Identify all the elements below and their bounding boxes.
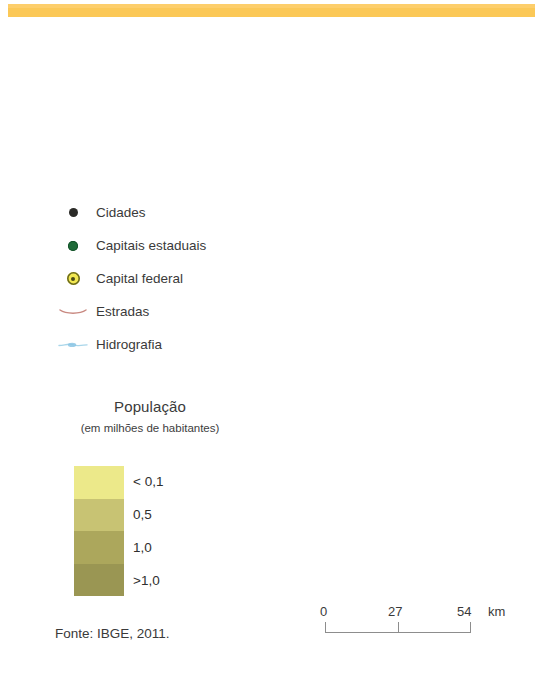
legend-item-label: Capital federal <box>96 262 183 295</box>
ramp-label: 1,0 <box>133 540 152 555</box>
ramp-label: < 0,1 <box>133 474 163 489</box>
ramp-band-lt-0-1 <box>74 466 124 499</box>
map-scale-bar: 0 27 54 km <box>316 604 516 654</box>
yellow-target-icon <box>58 262 88 295</box>
legend-item-label: Cidades <box>96 196 146 229</box>
legend-item-cidades: Cidades <box>0 196 300 229</box>
ramp-band-1-0 <box>74 531 124 564</box>
legend-item-capitais-estaduais: Capitais estaduais <box>0 229 300 262</box>
ramp-band-gt-1-0 <box>74 564 124 597</box>
ramp-band-0-5 <box>74 499 124 532</box>
legend-item-label: Estradas <box>96 295 149 328</box>
legend-item-label: Capitais estaduais <box>96 229 206 262</box>
top-accent-bar-highlight <box>8 4 535 8</box>
population-title: População <box>0 398 300 415</box>
scale-unit-label: km <box>488 604 505 619</box>
ramp-label: >1,0 <box>133 573 160 588</box>
population-color-ramp: < 0,1 0,5 1,0 >1,0 <box>0 466 300 596</box>
scale-tick-mark <box>470 622 471 633</box>
green-dot-icon <box>58 229 88 262</box>
black-dot-icon <box>58 196 88 229</box>
color-ramp-swatches <box>74 466 124 596</box>
top-accent-bar <box>8 4 535 17</box>
scale-tick-mark <box>398 622 399 633</box>
population-subtitle: (em milhões de habitantes) <box>0 422 300 434</box>
legend-item-capital-federal: Capital federal <box>0 262 300 295</box>
legend-item-label: Hidrografia <box>96 328 162 361</box>
legend-item-estradas: Estradas <box>0 295 300 328</box>
scale-tick-label: 54 <box>457 604 471 619</box>
ramp-label: 0,5 <box>133 507 152 522</box>
source-attribution: Fonte: IBGE, 2011. <box>55 626 170 641</box>
map-legend-symbol-list: Cidades Capitais estaduais Capital feder… <box>0 196 300 361</box>
scale-tick-mark <box>325 622 326 633</box>
scale-tick-label: 0 <box>320 604 327 619</box>
river-line-icon <box>58 328 88 361</box>
legend-item-hidrografia: Hidrografia <box>0 328 300 361</box>
scale-tick-label: 27 <box>388 604 402 619</box>
population-legend-header: População (em milhões de habitantes) <box>0 398 300 434</box>
road-line-icon <box>58 295 88 328</box>
